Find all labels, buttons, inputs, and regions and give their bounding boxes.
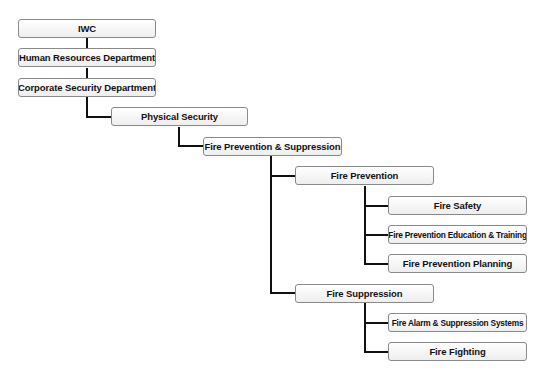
node-fire-alarm-suppression-systems: Fire Alarm & Suppression Systems: [388, 313, 527, 332]
node-fire-prevention-suppression: Fire Prevention & Suppression: [203, 137, 342, 156]
node-iwc: IWC: [18, 19, 156, 38]
node-fire-fighting: Fire Fighting: [388, 342, 527, 361]
node-corporate-security: Corporate Security Department: [18, 78, 156, 97]
node-fire-prevention-education-training: Fire Prevention Education & Training: [388, 225, 527, 244]
node-fire-safety: Fire Safety: [388, 196, 527, 215]
node-fire-prevention: Fire Prevention: [295, 166, 434, 185]
node-human-resources: Human Resources Department: [18, 48, 156, 67]
node-fire-suppression: Fire Suppression: [295, 284, 434, 303]
node-physical-security: Physical Security: [111, 107, 248, 126]
node-fire-prevention-planning: Fire Prevention Planning: [388, 254, 527, 273]
